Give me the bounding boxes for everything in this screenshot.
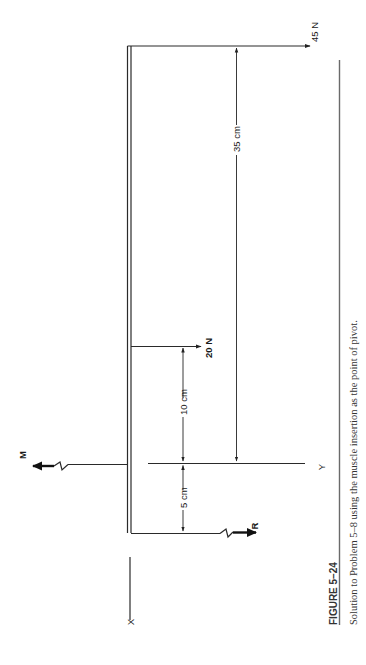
reaction-force-arrow [131,529,256,537]
y-axis-label: Y [316,463,327,470]
figure-caption: Solution to Problem 5–8 using the muscle… [348,320,359,625]
segment-distance-label: 10 cm [178,389,189,415]
load-force-label: 45 N [309,22,320,42]
reaction-distance-label: 5 cm [178,487,189,508]
reaction-force-label: R [249,522,260,529]
x-axis-label: X [125,618,136,625]
figure-number: FIGURE 5–24 [328,562,339,625]
segment-weight-label: 20 N [203,338,214,358]
free-body-diagram: 45 N 35 cm 20 N 10 cm Y M 5 cm R [0,0,366,665]
muscle-force-label: M [17,451,28,459]
load-distance-label: 35 cm [231,126,242,152]
lever-beam [128,46,132,533]
muscle-force-arrow [33,462,128,470]
